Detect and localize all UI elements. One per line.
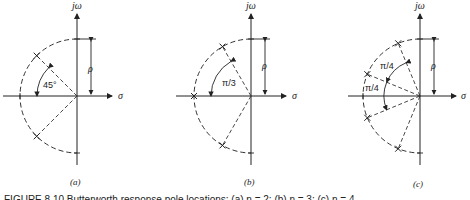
pole-marker [34,53,40,59]
pole-marker [395,146,401,152]
sigma-label: σ [292,90,298,101]
panel-c: jω σ π/4 π/4 ρ (c) [348,0,467,189]
pole-marker [34,133,40,139]
figure-caption: FIGURE 8.10 Butterworth response pole lo… [4,194,357,200]
panel-a: jω σ 45° ρ (a) [3,0,124,187]
pole-marker [395,40,401,46]
panel-label: (b) [244,177,255,187]
sigma-label: σ [461,90,467,101]
angle-label: π/3 [222,78,236,88]
panel-label: (c) [413,179,423,189]
jw-label: jω [413,0,425,11]
angle-label: π/4 [380,61,394,71]
butterworth-pole-diagram: jω σ 45° ρ (a) jω σ [0,0,470,200]
jw-label: jω [244,0,256,11]
pole-ray [223,96,252,145]
pole-marker [364,115,370,121]
pole-ray [223,47,252,96]
rho-label: ρ [87,63,93,74]
rho-label: ρ [430,60,436,71]
angle-label: 45° [43,80,57,90]
panel-b: jω σ π/3 ρ (b) [176,0,298,187]
angle-label: π/4 [365,83,379,93]
pole-ray [37,96,77,136]
pole-marker [220,44,226,50]
pole-marker [364,71,370,77]
rho-label: ρ [261,60,267,71]
jw-label: jω [70,0,82,11]
pole-marker [220,142,226,148]
sigma-label: σ [118,90,124,101]
panel-label: (a) [70,177,81,187]
